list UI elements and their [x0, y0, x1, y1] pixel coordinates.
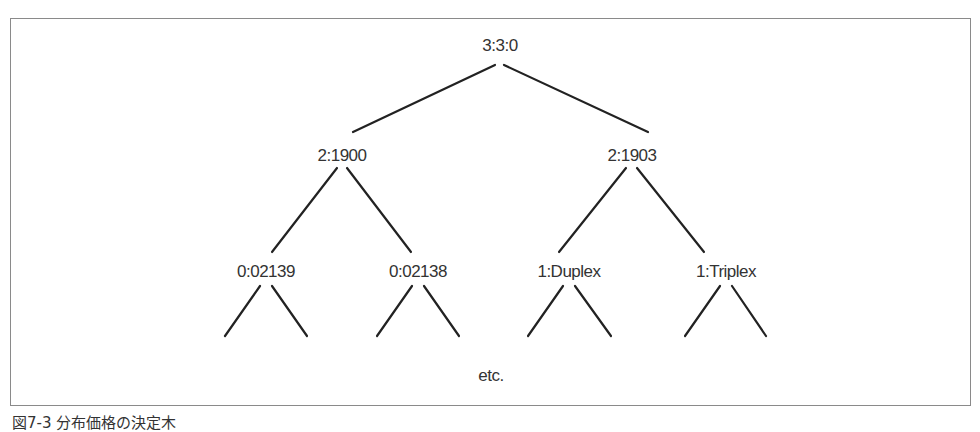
node-0-02138: 0:02138 [389, 262, 447, 282]
edge-02139-left [225, 286, 260, 336]
figure-caption: 図7-3 分布価格の決定木 [12, 411, 176, 432]
node-1-duplex: 1:Duplex [537, 262, 600, 282]
node-2-1903: 2:1903 [608, 146, 657, 166]
edge-1900-left [272, 168, 337, 252]
edge-1903-left [559, 168, 626, 252]
edge-root-right [504, 65, 648, 132]
node-root: 3:3:0 [482, 36, 517, 56]
edge-duplex-left [528, 286, 563, 336]
continuation-etc: etc. [478, 366, 503, 386]
edge-02139-right [272, 286, 307, 336]
edge-triplex-left [685, 286, 720, 336]
edge-1903-right [637, 168, 704, 252]
edge-1900-right [347, 168, 411, 252]
node-2-1900: 2:1900 [318, 146, 367, 166]
edge-02138-left [377, 286, 412, 336]
node-1-triplex: 1:Triplex [696, 262, 756, 282]
edge-02138-right [424, 286, 459, 336]
node-0-02139: 0:02139 [237, 262, 295, 282]
edge-duplex-right [575, 286, 611, 336]
edge-triplex-right [732, 286, 766, 336]
edge-root-left [353, 65, 495, 132]
